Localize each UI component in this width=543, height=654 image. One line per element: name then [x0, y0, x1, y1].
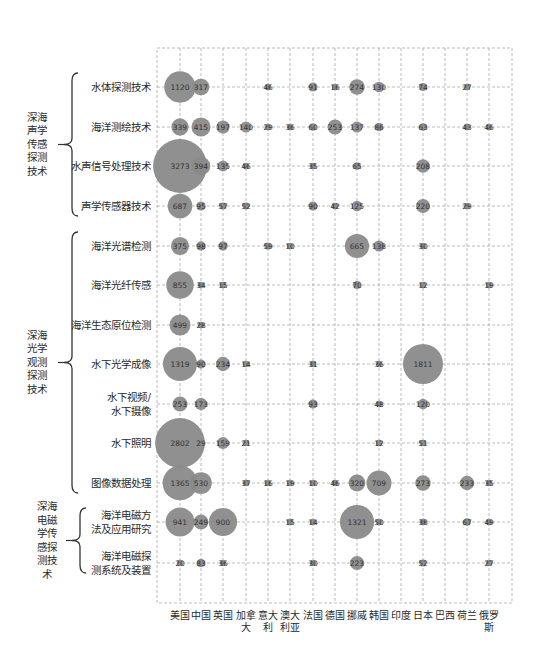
bubble: 320 — [349, 475, 366, 492]
bubble: 900 — [209, 508, 237, 536]
bubble: 394 — [192, 157, 211, 176]
bubble: 49 — [484, 518, 494, 527]
bubble-value: 12 — [418, 281, 428, 290]
bubble-value: 93 — [308, 400, 318, 409]
bubble-value: 14 — [308, 518, 318, 527]
bubble-value: 52 — [241, 202, 251, 211]
row-label-line: 海洋测绘技术 — [91, 120, 151, 134]
bubble: 35 — [308, 162, 318, 171]
column-label: 挪威 — [345, 610, 369, 622]
bubble-value: 137 — [350, 123, 365, 132]
bubble-value: 51 — [418, 439, 428, 448]
group-brace-icon — [72, 508, 86, 573]
bubble: 31 — [308, 360, 318, 369]
group-brace-icon — [64, 73, 78, 216]
bubble-value: 499 — [173, 321, 188, 330]
group-label-line: 深海 — [32, 500, 62, 514]
bubble-value: 233 — [460, 479, 475, 488]
bubble: 42 — [330, 202, 340, 211]
bubble: 19 — [285, 479, 295, 488]
group-label-line: 技术 — [22, 165, 52, 179]
bubble-value: 46 — [263, 83, 273, 92]
bubble-value: 223 — [350, 559, 365, 568]
bubble: 48 — [374, 400, 384, 409]
bubble: 35 — [484, 479, 494, 488]
bubble-value: 253 — [173, 400, 188, 409]
bubble-value: 15 — [285, 518, 295, 527]
row-label-line: 图像数据处理 — [91, 476, 151, 490]
column-label-line: 巴西 — [433, 610, 457, 622]
row-label-line: 测系统及装置 — [91, 563, 151, 577]
bubble-value: 27 — [484, 559, 494, 568]
bubble-value: 173 — [194, 400, 209, 409]
bubble-value: 46 — [330, 479, 340, 488]
bubble: 97 — [218, 241, 228, 250]
bubble: 375 — [171, 237, 189, 255]
row-label-line: 海洋电磁方 — [91, 508, 151, 522]
bubble-value: 57 — [218, 202, 228, 211]
row-label: 海洋电磁探测系统及装置 — [91, 549, 151, 577]
bubble-value: 16 — [330, 83, 340, 92]
bubble: 29 — [462, 202, 472, 211]
bubble-value: 320 — [350, 479, 365, 488]
group-brace-icon — [64, 232, 78, 493]
bubble-value: 125 — [350, 202, 365, 211]
group-label-line: 深海 — [22, 329, 52, 343]
row-label-line: 声学传感器技术 — [81, 199, 151, 213]
bubble: 46 — [330, 479, 340, 488]
bubble: 339 — [171, 118, 188, 135]
bubble: 37 — [241, 479, 251, 488]
bubble-value: 67 — [462, 518, 472, 527]
bubble-value: 74 — [418, 83, 428, 92]
column-label-line: 俄罗 — [477, 610, 501, 622]
row-label: 水下视频/水下摄像 — [107, 390, 151, 418]
group-label-line: 测技 — [32, 554, 62, 568]
bubble-value: 36 — [285, 123, 295, 132]
bubble: 21 — [241, 439, 251, 448]
bubble-value: 60 — [308, 123, 318, 132]
row-label: 水声信号处理技术 — [71, 159, 151, 173]
bubble: 665 — [345, 234, 369, 258]
row-label-line: 水声信号处理技术 — [71, 159, 151, 173]
group-label-line: 电磁 — [32, 514, 62, 528]
group-label-line: 传感 — [22, 138, 52, 152]
bubble: 38 — [418, 518, 428, 527]
column-label: 韩国 — [367, 610, 391, 622]
bubble: 274 — [349, 79, 365, 95]
bubble-value: 394 — [194, 162, 209, 171]
row-label-line: 水体探测技术 — [91, 80, 151, 94]
bubble-value: 29 — [196, 439, 206, 448]
column-label: 澳大利亚 — [278, 610, 302, 634]
bubble: 1319 — [163, 347, 197, 381]
row-label-line: 海洋光谱检测 — [91, 239, 151, 253]
bubble: 60 — [308, 123, 318, 132]
column-label-line: 斯 — [477, 622, 501, 634]
bubble-value: 665 — [350, 242, 365, 251]
bubble-value: 30 — [308, 559, 318, 568]
bubble-value: 65 — [352, 162, 362, 171]
bubble-value: 159 — [216, 439, 231, 448]
bubble: 530 — [190, 472, 212, 494]
column-label-line: 利 — [256, 622, 280, 634]
bubble: 15 — [285, 518, 295, 527]
column-label: 荷兰 — [455, 610, 479, 622]
bubble: 273 — [415, 475, 431, 491]
bubble-value: 90 — [308, 202, 318, 211]
bubble-value: 1811 — [413, 360, 432, 369]
bubble-value: 274 — [350, 83, 365, 92]
row-label: 水下光学成像 — [91, 357, 151, 371]
bubble: 70 — [352, 281, 362, 290]
column-label: 日本 — [411, 610, 435, 622]
bubble-value: 415 — [194, 123, 209, 132]
bubble-value: 339 — [173, 123, 188, 132]
bubble: 15 — [218, 281, 228, 290]
bubble: 43 — [462, 123, 472, 132]
group-label-line: 探测 — [22, 369, 52, 383]
column-label-line: 意大 — [256, 610, 280, 622]
column-label-line: 德国 — [323, 610, 347, 622]
bubble: 14 — [241, 360, 251, 369]
row-label: 水下照明 — [111, 436, 151, 450]
bubble-value: 90 — [196, 360, 206, 369]
group-label-line: 感探 — [32, 541, 62, 555]
bubble-value: 138 — [372, 242, 387, 251]
